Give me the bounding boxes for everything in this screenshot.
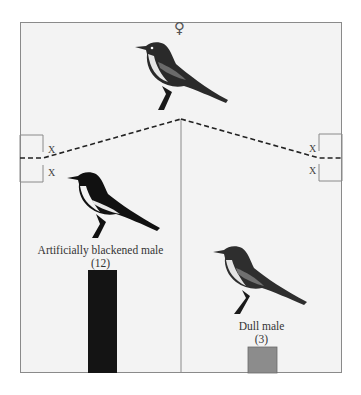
path-to-right-male	[181, 119, 342, 158]
bar-blackened-male	[88, 270, 117, 373]
blackened-male-bird-icon	[67, 172, 160, 238]
right-male-label: Dull male (3)	[181, 320, 342, 346]
left-male-label: Artificially blackened male (12)	[20, 244, 181, 270]
entrance-mark: X	[309, 165, 317, 176]
left-male-name: Artificially blackened male	[20, 244, 181, 257]
entrance-mark: X	[48, 144, 56, 155]
female-symbol: ♀	[174, 19, 185, 37]
entrance-mark: X	[48, 167, 56, 178]
dull-male-bird-icon	[213, 246, 307, 314]
right-male-count: (3)	[181, 333, 342, 346]
female-bird-icon	[135, 42, 228, 110]
path-to-left-male	[20, 119, 181, 158]
right-male-name: Dull male	[181, 320, 342, 333]
bar-dull-male	[248, 347, 277, 373]
left-male-count: (12)	[20, 257, 181, 270]
entrance-mark: X	[309, 143, 317, 154]
